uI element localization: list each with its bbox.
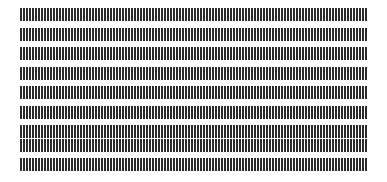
tick-row [20, 28, 367, 41]
tick-mark [365, 106, 367, 119]
tick-mark [365, 67, 367, 80]
tick-row [20, 8, 367, 21]
tick-mark [365, 28, 367, 41]
tick-mark [365, 8, 367, 21]
tick-row [20, 47, 367, 60]
tick-pattern-canvas [0, 0, 387, 182]
tick-mark [365, 158, 367, 171]
tick-mark [365, 139, 367, 152]
tick-row [20, 86, 367, 99]
tick-mark [365, 47, 367, 60]
tick-row [20, 139, 367, 152]
tick-row [20, 125, 367, 138]
tick-row [20, 106, 367, 119]
tick-row [20, 67, 367, 80]
tick-mark [365, 86, 367, 99]
tick-mark [365, 125, 367, 138]
tick-row [20, 158, 367, 171]
